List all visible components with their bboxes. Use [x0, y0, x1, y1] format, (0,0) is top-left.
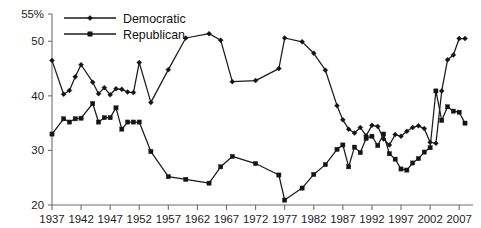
data-point-republican: [114, 106, 118, 110]
x-tick-label: 1967: [214, 213, 239, 225]
x-tick-label: 1997: [388, 213, 413, 225]
x-tick-label: 1962: [185, 213, 210, 225]
data-point-democratic: [282, 36, 287, 41]
data-point-republican: [335, 147, 339, 151]
data-point-republican: [277, 173, 281, 177]
x-tick-label: 1972: [243, 213, 268, 225]
data-point-republican: [149, 149, 153, 153]
data-point-republican: [387, 152, 391, 156]
data-point-republican: [370, 134, 374, 138]
x-tick-label: 1952: [127, 213, 152, 225]
legend-label: Republican: [123, 28, 185, 42]
data-point-republican: [96, 120, 100, 124]
data-point-democratic: [230, 79, 235, 84]
data-point-republican: [50, 132, 54, 136]
data-point-democratic: [375, 124, 380, 129]
x-tick-label: 1942: [68, 213, 93, 225]
data-point-republican: [73, 117, 77, 121]
data-point-republican: [108, 116, 112, 120]
data-point-democratic: [218, 38, 223, 43]
y-tick-label: 50: [31, 35, 44, 47]
data-point-republican: [219, 165, 223, 169]
data-point-republican: [312, 172, 316, 176]
x-tick-label: 2007: [447, 213, 472, 225]
x-tick-label: 1977: [272, 213, 297, 225]
data-point-republican: [381, 132, 385, 136]
y-axis: 55%50403020: [21, 8, 52, 211]
data-point-democratic: [457, 36, 462, 41]
data-point-democratic: [393, 132, 398, 137]
data-point-republican: [457, 110, 461, 114]
data-point-republican: [184, 177, 188, 181]
data-point-republican: [463, 121, 467, 125]
data-point-republican: [376, 143, 380, 147]
data-point-republican: [137, 120, 141, 124]
data-point-republican: [300, 186, 304, 190]
data-point-republican: [347, 165, 351, 169]
y-tick-label: 30: [31, 144, 44, 156]
legend-item-republican: Republican: [64, 28, 185, 42]
y-tick-label: 20: [31, 199, 44, 211]
data-point-republican: [434, 89, 438, 93]
y-tick-label: 40: [31, 90, 44, 102]
data-point-republican: [102, 116, 106, 120]
legend-item-democratic: Democratic: [64, 12, 186, 26]
data-point-republican: [131, 120, 135, 124]
x-tick-label: 1937: [39, 213, 64, 225]
data-point-republican: [323, 163, 327, 167]
legend-label: Democratic: [123, 12, 186, 26]
data-point-republican: [358, 151, 362, 155]
data-point-republican: [451, 109, 455, 113]
data-point-republican: [411, 161, 415, 165]
data-point-democratic: [335, 103, 340, 108]
data-point-republican: [393, 157, 397, 161]
data-point-republican: [91, 101, 95, 105]
data-point-republican: [428, 146, 432, 150]
x-axis: 1937194219471952195719621967197219771982…: [39, 205, 473, 225]
data-point-republican: [440, 118, 444, 122]
data-point-republican: [352, 145, 356, 149]
x-tick-label: 1987: [330, 213, 355, 225]
x-tick-label: 1947: [97, 213, 122, 225]
data-point-republican: [207, 181, 211, 185]
data-point-republican: [422, 150, 426, 154]
data-point-republican: [230, 154, 234, 158]
data-point-republican: [364, 136, 368, 140]
data-point-democratic: [207, 31, 212, 36]
data-point-democratic: [73, 74, 78, 79]
data-point-democratic: [50, 58, 55, 63]
x-tick-label: 1982: [301, 213, 326, 225]
data-point-republican: [120, 127, 124, 131]
series-republican: [50, 89, 467, 202]
data-point-republican: [283, 198, 287, 202]
data-point-republican: [416, 157, 420, 161]
data-point-republican: [399, 167, 403, 171]
data-point-republican: [79, 116, 83, 120]
x-tick-label: 1992: [359, 213, 384, 225]
data-point-democratic: [439, 88, 444, 93]
data-point-democratic: [166, 67, 171, 72]
data-point-democratic: [422, 126, 427, 131]
legend-marker-square: [88, 32, 92, 36]
data-point-republican: [341, 143, 345, 147]
data-point-democratic: [131, 90, 136, 95]
data-point-republican: [126, 120, 130, 124]
data-point-democratic: [369, 123, 374, 128]
y-tick-label: 55%: [21, 8, 44, 20]
data-point-democratic: [463, 36, 468, 41]
data-point-republican: [253, 161, 257, 165]
data-point-republican: [67, 120, 71, 124]
data-point-republican: [445, 105, 449, 109]
legend: DemocraticRepublican: [64, 12, 186, 42]
party-identification-line-chart: 55%5040302019371942194719521957196219671…: [0, 0, 481, 228]
data-point-democratic: [125, 90, 130, 95]
data-point-republican: [166, 175, 170, 179]
x-tick-label: 2002: [417, 213, 442, 225]
data-point-democratic: [433, 141, 438, 146]
data-point-republican: [405, 168, 409, 172]
x-tick-label: 1957: [156, 213, 181, 225]
legend-marker-diamond: [87, 15, 92, 20]
data-point-democratic: [416, 123, 421, 128]
data-point-democratic: [253, 78, 258, 83]
data-point-democratic: [137, 60, 142, 65]
